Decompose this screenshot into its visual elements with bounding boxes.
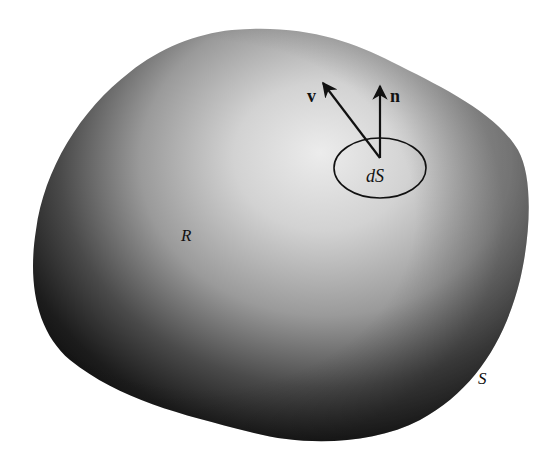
label-v: v xyxy=(307,86,316,107)
region-body-shadow xyxy=(33,29,529,442)
surface-region-diagram: v n dS R S xyxy=(0,0,558,460)
label-S: S xyxy=(478,369,487,389)
label-dS: dS xyxy=(366,166,384,187)
label-R: R xyxy=(181,226,191,246)
label-n: n xyxy=(390,86,400,107)
